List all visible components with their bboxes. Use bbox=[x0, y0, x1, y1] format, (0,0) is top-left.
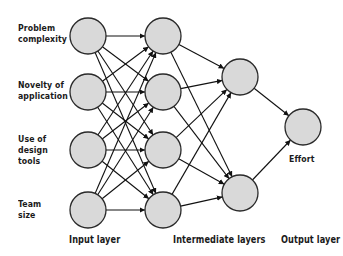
intermediate-1-node bbox=[145, 74, 181, 110]
input-label-novelty-of-application: Novelty of application bbox=[18, 79, 68, 101]
label-line: size bbox=[18, 209, 41, 220]
intermediate-1-node bbox=[145, 192, 181, 228]
connection-edge bbox=[254, 88, 289, 116]
label-line: Problem bbox=[18, 22, 67, 33]
input-node bbox=[70, 74, 106, 110]
connection-edges bbox=[95, 36, 291, 210]
input-node bbox=[70, 192, 106, 228]
output-node bbox=[285, 109, 321, 145]
input-label-use-of-design-tools: Use of design tools bbox=[18, 133, 48, 166]
intermediate-2-node bbox=[222, 59, 258, 95]
intermediate-2-node bbox=[222, 175, 258, 211]
label-line: tools bbox=[18, 155, 48, 166]
label-line: application bbox=[18, 90, 68, 101]
label-line: Use of bbox=[18, 133, 48, 144]
label-line: Team bbox=[18, 198, 41, 209]
layer-label-intermediate: Intermediate layers bbox=[173, 234, 266, 245]
label-line: Novelty of bbox=[18, 79, 68, 90]
label-line: design bbox=[18, 144, 48, 155]
output-label-effort: Effort bbox=[289, 153, 315, 164]
intermediate-1-node bbox=[145, 132, 181, 168]
connection-edge bbox=[181, 197, 223, 206]
layer-label-input: Input layer bbox=[69, 234, 120, 245]
connection-edge bbox=[179, 45, 224, 69]
input-label-team-size: Team size bbox=[18, 198, 41, 220]
layer-label-output: Output layer bbox=[281, 234, 340, 245]
connection-edge bbox=[172, 93, 231, 195]
connection-edge bbox=[252, 140, 290, 180]
intermediate-1-node bbox=[145, 18, 181, 54]
input-label-problem-complexity: Problem complexity bbox=[18, 22, 67, 44]
label-line: complexity bbox=[18, 33, 67, 44]
input-node bbox=[70, 132, 106, 168]
input-node bbox=[70, 18, 106, 54]
